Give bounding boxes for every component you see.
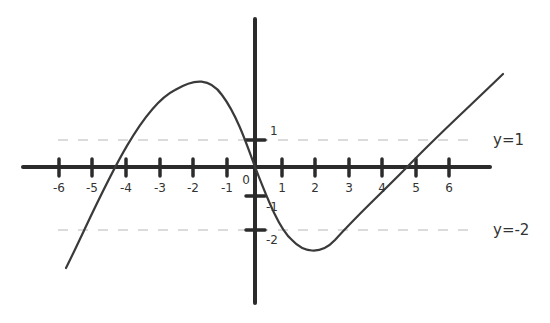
graph-canvas: -6 -5 -4 -3 -2 -1 1 2 3 4 5 6 0 1 -1 -2 … — [0, 0, 550, 323]
y-label-1: 1 — [270, 124, 278, 138]
x-label: 4 — [378, 181, 386, 195]
x-label: -4 — [120, 181, 132, 195]
reference-label-y-2: y=-2 — [493, 221, 529, 239]
x-label: -2 — [187, 181, 199, 195]
x-label: 6 — [445, 181, 453, 195]
x-label: -3 — [154, 181, 166, 195]
reference-label-y1: y=1 — [493, 131, 524, 149]
origin-label: 0 — [242, 173, 250, 187]
function-curve — [66, 74, 503, 268]
x-label: -1 — [221, 181, 233, 195]
x-label: 5 — [412, 181, 420, 195]
x-label: 1 — [278, 181, 286, 195]
x-axis-labels: -6 -5 -4 -3 -2 -1 1 2 3 4 5 6 — [53, 181, 453, 195]
x-label: -6 — [53, 181, 65, 195]
function-graph: -6 -5 -4 -3 -2 -1 1 2 3 4 5 6 0 1 -1 -2 … — [0, 0, 550, 323]
x-label: 3 — [345, 181, 353, 195]
x-label: -5 — [86, 181, 98, 195]
y-label-neg2: -2 — [266, 233, 278, 247]
y-label-neg1: -1 — [266, 200, 278, 214]
x-label: 2 — [311, 181, 319, 195]
